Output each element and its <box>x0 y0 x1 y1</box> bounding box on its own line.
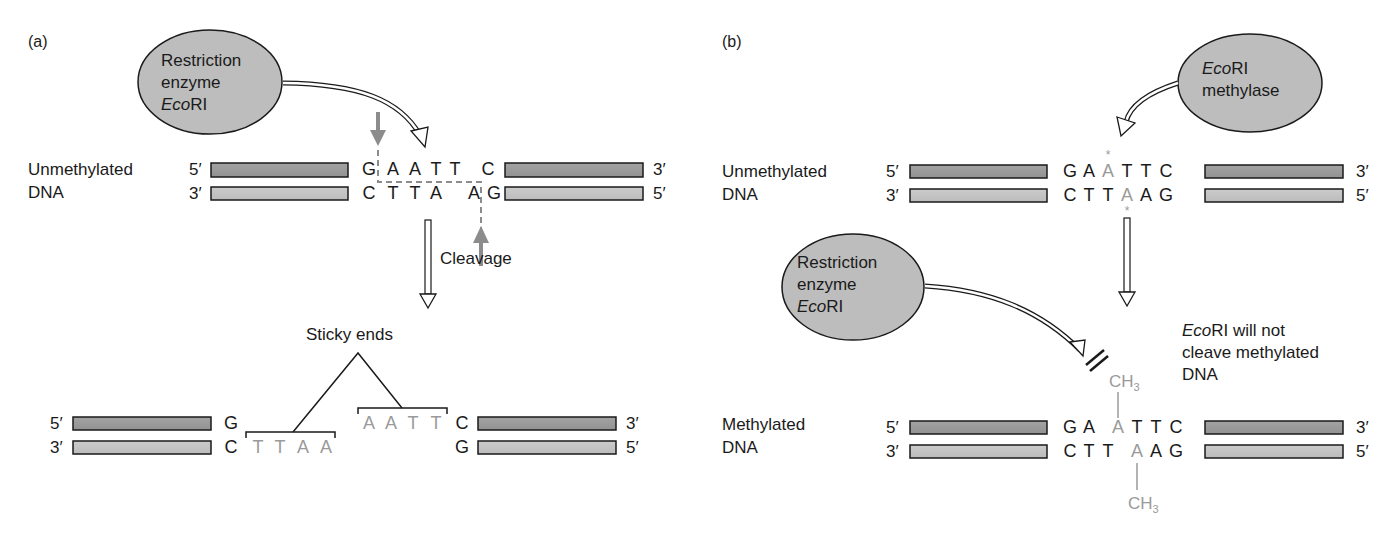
strand-bar <box>910 421 1047 434</box>
process-arrow-icon <box>1119 292 1135 306</box>
strand-bar <box>211 163 348 177</box>
strand-end-label: 5′ <box>189 160 202 179</box>
strand-bar <box>478 417 616 430</box>
strand-end-label: 3′ <box>886 442 899 461</box>
strand-bar <box>910 165 1047 178</box>
cleavage-arrow-up-icon <box>473 226 489 243</box>
dna-label-unmethylated: Unmethylated DNA <box>28 160 133 202</box>
strand-end-label: 3′ <box>1356 418 1369 437</box>
strand-bar <box>1205 189 1343 202</box>
strand-bar <box>73 441 211 454</box>
methylase-label: EcoRI methylase <box>1202 58 1279 102</box>
strand-end-label: 3′ <box>653 160 666 179</box>
strand-end-label: 5′ <box>1356 186 1369 205</box>
cleavage-arrow-down-icon <box>370 130 386 146</box>
dna-label-unmethylated: Unmethylated DNA <box>722 162 827 204</box>
methylation-target-base: A <box>1118 185 1136 205</box>
methylation-site-marker: * <box>1121 204 1133 218</box>
figure: (a) Restriction enzyme EcoRI Unmethylate… <box>0 0 1396 533</box>
strand-end-label: 3′ <box>189 184 202 203</box>
base-g: G <box>222 413 240 433</box>
panel-a-graphics <box>73 30 643 454</box>
strand-bar <box>478 441 616 454</box>
arrowhead-icon <box>1070 340 1085 356</box>
methylation-site-marker: * <box>1102 148 1114 162</box>
process-arrow-icon <box>420 294 436 308</box>
cleavage-label: Cleavage <box>440 249 512 268</box>
strand-end-label: 3′ <box>50 438 63 457</box>
panel-label-a: (a) <box>28 32 48 51</box>
methylation-target-base: A <box>1099 161 1117 181</box>
restriction-enzyme-label: Restriction enzyme EcoRI <box>797 252 877 318</box>
methylated-base: A <box>1109 417 1127 437</box>
base-c: C <box>222 437 240 457</box>
panel-label-b: (b) <box>722 32 742 51</box>
restriction-enzyme-label: Restriction enzyme EcoRI <box>161 50 241 116</box>
strand-bar <box>73 417 211 430</box>
strand-bar <box>1205 445 1343 458</box>
sticky-ends-label: Sticky ends <box>306 325 393 344</box>
methyl-group-bottom: CH3 <box>1128 494 1159 515</box>
strand-end-label: 3′ <box>886 186 899 205</box>
base-c: C <box>453 413 471 433</box>
strand-end-label: 5′ <box>886 162 899 181</box>
no-cleavage-note: EcoRI will not cleave methylated DNA <box>1182 320 1319 386</box>
strand-bar <box>1205 421 1343 434</box>
strand-bar <box>505 163 643 177</box>
strand-end-label: 5′ <box>1356 442 1369 461</box>
strand-bar <box>505 187 643 200</box>
strand-end-label: 5′ <box>626 438 639 457</box>
dna-label-methylated: Methylated DNA <box>722 415 805 457</box>
strand-end-label: 5′ <box>886 418 899 437</box>
methyl-group-top: CH3 <box>1109 372 1140 393</box>
methylated-base: A <box>1128 441 1146 461</box>
strand-bar <box>910 189 1047 202</box>
arrowhead-icon <box>1117 117 1135 136</box>
strand-bar <box>1205 165 1343 178</box>
arrowhead-icon <box>411 127 428 147</box>
strand-end-label: 5′ <box>50 414 63 433</box>
strand-bar <box>910 445 1047 458</box>
strand-end-label: 3′ <box>1356 162 1369 181</box>
strand-bar <box>211 187 348 200</box>
strand-end-label: 5′ <box>653 184 666 203</box>
strand-end-label: 3′ <box>626 414 639 433</box>
base-g: G <box>453 437 471 457</box>
